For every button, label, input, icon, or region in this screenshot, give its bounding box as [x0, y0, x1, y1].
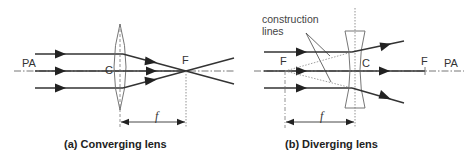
ray-bottom-refracted	[352, 88, 404, 103]
arrow-icon	[145, 77, 158, 86]
focus-left-label: F	[280, 55, 287, 67]
construction-label-line2: lines	[262, 25, 284, 37]
axis-label-pa: PA	[22, 57, 37, 69]
construction-line-upper	[285, 52, 352, 71]
focus-right-label: F	[421, 55, 428, 67]
arrow-icon	[296, 48, 307, 57]
arrow-icon	[145, 57, 158, 66]
construction-pointer-lower	[306, 33, 331, 82]
arrow-icon	[379, 90, 392, 99]
center-label-c: C	[105, 64, 113, 76]
panel-converging-lens: PA C F f (a) Converging lens	[14, 24, 234, 150]
arrow-icon	[379, 67, 390, 76]
ray-top-refracted	[352, 41, 404, 52]
arrow-icon	[146, 67, 157, 76]
caption-b: (b) Diverging lens	[285, 138, 378, 150]
caption-a: (a) Converging lens	[64, 138, 167, 150]
panel-diverging-lens: PA construction lines C F F f	[254, 8, 464, 150]
ray-bottom-refracted	[123, 58, 234, 88]
axis-label-pa: PA	[444, 57, 459, 69]
center-label-c: C	[362, 57, 370, 69]
focal-length-label: f	[155, 109, 160, 123]
arrow-icon	[380, 43, 392, 52]
focus-label-f: F	[182, 54, 189, 66]
arrow-icon	[296, 84, 307, 93]
construction-label-line1: construction	[262, 13, 319, 25]
arrow-icon	[55, 84, 66, 93]
construction-line-lower	[285, 71, 352, 88]
arrow-icon	[55, 50, 66, 59]
ray-top-refracted	[123, 54, 234, 84]
lens-diagram: PA C F f (a) Converging lens PA	[0, 0, 468, 160]
focal-length-label: f	[320, 109, 325, 123]
arrow-icon	[55, 67, 66, 76]
